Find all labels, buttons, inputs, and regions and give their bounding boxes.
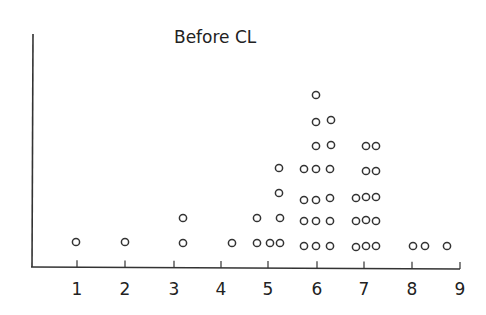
data-point-circle: [421, 242, 428, 249]
data-point-circle: [362, 242, 369, 249]
x-tick-label: 2: [120, 279, 131, 299]
x-axis-ticks: 123456789: [72, 260, 466, 299]
x-tick-label: 1: [72, 279, 83, 299]
x-tick-label: 4: [216, 279, 227, 299]
data-point-circle: [276, 214, 283, 221]
data-point-circle: [362, 216, 369, 223]
data-point-circle: [312, 118, 319, 125]
data-point-circle: [372, 167, 379, 174]
data-point-circle: [179, 214, 186, 221]
data-point-circle: [276, 239, 283, 246]
x-axis: [31, 267, 460, 269]
data-point-circle: [326, 165, 333, 172]
x-tick-label: 3: [169, 279, 180, 299]
data-point-circle: [312, 91, 319, 98]
data-point-circle: [352, 194, 359, 201]
x-tick-label: 5: [263, 279, 274, 299]
data-point-circle: [352, 217, 359, 224]
data-point-circle: [326, 242, 333, 249]
data-point-circle: [372, 142, 379, 149]
data-point-circle: [326, 194, 333, 201]
dot-plot-chart: Before CL 123456789: [0, 0, 486, 315]
chart-title: Before CL: [174, 27, 257, 47]
data-point-circle: [275, 189, 282, 196]
data-point-circle: [312, 217, 319, 224]
x-tick-label: 9: [455, 279, 466, 299]
data-points: [72, 91, 450, 250]
data-point-circle: [312, 196, 319, 203]
x-tick-label: 6: [312, 279, 323, 299]
data-point-circle: [121, 238, 128, 245]
data-point-circle: [327, 141, 334, 148]
data-point-circle: [312, 142, 319, 149]
data-point-circle: [266, 239, 273, 246]
x-tick-label: 8: [407, 279, 418, 299]
data-point-circle: [312, 165, 319, 172]
data-point-circle: [179, 239, 186, 246]
data-point-circle: [300, 242, 307, 249]
data-point-circle: [300, 217, 307, 224]
data-point-circle: [312, 242, 319, 249]
data-point-circle: [253, 214, 260, 221]
x-tick-label: 7: [359, 279, 370, 299]
y-axis: [32, 34, 33, 267]
data-point-circle: [409, 242, 416, 249]
data-point-circle: [300, 165, 307, 172]
data-point-circle: [372, 193, 379, 200]
data-point-circle: [352, 243, 359, 250]
data-point-circle: [372, 242, 379, 249]
data-point-circle: [300, 196, 307, 203]
data-point-circle: [326, 217, 333, 224]
data-point-circle: [372, 217, 379, 224]
data-point-circle: [362, 167, 369, 174]
data-point-circle: [327, 116, 334, 123]
data-point-circle: [443, 242, 450, 249]
data-point-circle: [253, 239, 260, 246]
data-point-circle: [362, 193, 369, 200]
data-point-circle: [362, 142, 369, 149]
data-point-circle: [72, 238, 79, 245]
data-point-circle: [275, 164, 282, 171]
data-point-circle: [228, 239, 235, 246]
